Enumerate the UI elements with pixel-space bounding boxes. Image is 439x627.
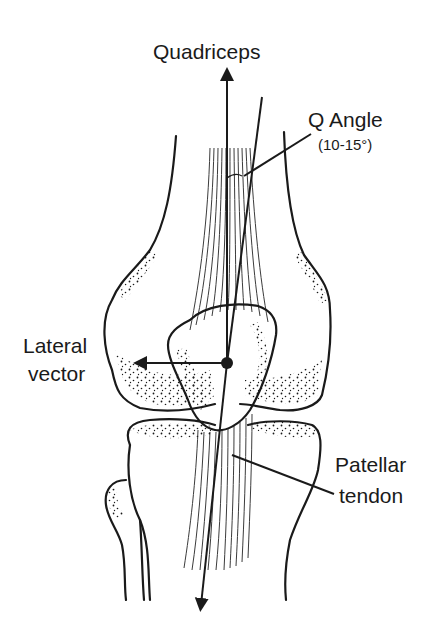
tibia-outline bbox=[128, 419, 321, 600]
quadriceps-label: Quadriceps bbox=[153, 40, 260, 64]
q-angle-range-label: (10-15°) bbox=[318, 136, 372, 154]
lateral-vector-label-line2: vector bbox=[28, 362, 85, 386]
q-angle-label: Q Angle bbox=[308, 108, 383, 132]
lateral-vector-label-line1: Lateral bbox=[23, 334, 87, 358]
patellar-tendon-label-line1: Patellar bbox=[335, 453, 406, 477]
patella-center-point bbox=[221, 357, 233, 369]
patellar-tendon-label-line2: tendon bbox=[339, 484, 403, 508]
knee-q-angle-diagram bbox=[0, 0, 439, 627]
